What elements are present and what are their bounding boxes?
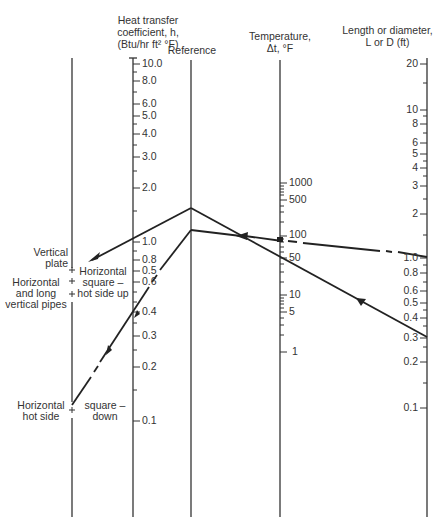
length-tick-label: 4 xyxy=(380,162,418,173)
temperature-axis-ticks xyxy=(280,183,287,352)
h-tick-label: 0.4 xyxy=(142,306,157,317)
label-square-down: square – down xyxy=(80,400,130,422)
temperature-tick-label: 1 xyxy=(292,346,298,357)
length-axis-ticks xyxy=(420,64,427,408)
length-tick-label: 2 xyxy=(380,208,418,219)
h-tick-label: 4.0 xyxy=(142,128,157,139)
length-tick-label: 8 xyxy=(380,118,418,129)
solution-path-dashed xyxy=(72,230,427,405)
label-horizontal-pipes: Horizontal and long vertical pipes xyxy=(0,277,72,310)
length-tick-label: 10 xyxy=(380,104,418,115)
length-tick-label: 0.1 xyxy=(380,402,418,413)
h-tick-label: 0.1 xyxy=(142,415,157,426)
temperature-tick-label: 5 xyxy=(289,306,295,317)
h-tick-label: 0.2 xyxy=(142,361,157,372)
length-tick-label: 0.3 xyxy=(380,332,418,343)
length-tick-label: 0.2 xyxy=(380,356,418,367)
temperature-tick-label: 100 xyxy=(289,229,307,240)
h-tick-label: 0.3 xyxy=(142,330,157,341)
length-tick-label: 0.8 xyxy=(380,267,418,278)
h-tick-label: 1.0 xyxy=(142,236,157,247)
h-tick-label: 0.6 xyxy=(142,276,157,287)
temperature-tick-label: 1000 xyxy=(289,177,312,188)
arrow-icon xyxy=(88,252,100,262)
length-tick-label: 20 xyxy=(380,58,418,69)
h-tick-label: 5.0 xyxy=(142,110,157,121)
length-tick-label: 0.6 xyxy=(380,285,418,296)
length-tick-label: 0.5 xyxy=(380,297,418,308)
temperature-tick-label: 500 xyxy=(289,194,307,205)
h-axis-ticks xyxy=(133,64,140,421)
label-horizontal-square-hot-side-up: Horizontal square – hot side up xyxy=(74,266,132,299)
length-tick-label: 1.0 xyxy=(380,252,418,263)
h-tick-label: 8.0 xyxy=(142,75,157,86)
h-tick-label: 10.0 xyxy=(142,58,162,69)
temperature-tick-label: 10 xyxy=(289,289,301,300)
length-tick-label: 0.4 xyxy=(380,312,418,323)
temperature-tick-label: 50 xyxy=(289,252,301,263)
label-vertical-plate: Vertical plate xyxy=(10,247,68,269)
length-tick-label: 3 xyxy=(380,180,418,191)
h-tick-label: 3.0 xyxy=(142,151,157,162)
h-tick-label: 6.0 xyxy=(142,98,157,109)
label-horizontal-hot-side: Horizontal hot side xyxy=(12,400,70,422)
h-tick-label: 2.0 xyxy=(142,182,157,193)
arrow-icon xyxy=(134,310,140,318)
length-tick-label: 5 xyxy=(380,148,418,159)
